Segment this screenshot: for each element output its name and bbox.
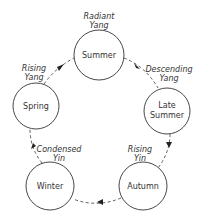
node-label: Spring [23, 102, 49, 111]
arrowhead-icon [166, 142, 172, 148]
phase-label: Condensed [37, 145, 83, 154]
phase-label: Yin [134, 154, 146, 163]
node-winter: Winter [26, 162, 74, 210]
phase-label: Yang [159, 74, 178, 83]
node-label: Autumn [127, 182, 159, 191]
arrowhead-icon [57, 64, 64, 71]
node-late-summer: Late Summer [144, 88, 190, 134]
phase-label: Radiant [84, 12, 116, 21]
phase-label: Rising [22, 64, 46, 73]
phase-label: Yin [53, 154, 65, 163]
arrowhead-icon [97, 199, 103, 205]
node-label: Summer [150, 111, 185, 120]
five-phase-cycle-diagram: Summer Late Summer Autumn Winter Spring … [0, 0, 198, 224]
node-label: Summer [82, 51, 117, 60]
arrow-autumn-to-winter [73, 198, 121, 203]
arrow-late-summer-to-autumn [158, 134, 170, 168]
phase-label: Descending [145, 65, 192, 74]
node-spring: Spring [13, 83, 59, 129]
phase-label: Yang [89, 21, 108, 30]
node-label: Winter [37, 182, 64, 191]
phase-label: Rising [128, 145, 152, 154]
phase-label: Yang [24, 73, 43, 82]
node-summer: Summer [74, 30, 124, 80]
node-autumn: Autumn [119, 162, 167, 210]
node-label: Late [158, 101, 175, 110]
